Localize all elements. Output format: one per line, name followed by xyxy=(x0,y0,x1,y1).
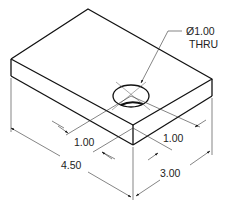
dim-label-hole-offset-left: 1.00 xyxy=(74,136,95,148)
dim-line-length-b xyxy=(88,172,131,197)
isometric-drawing: Ø1.00 THRU 1.00 1.00 4.50 3.00 xyxy=(0,0,225,208)
dim-line-length-a xyxy=(11,128,60,156)
plate-body xyxy=(11,9,212,145)
dim-line-width-a xyxy=(136,180,160,196)
dim-line-width-b xyxy=(190,151,210,165)
dim-line-hole-left xyxy=(58,126,68,133)
dim-label-hole-offset-right: 1.00 xyxy=(163,132,184,144)
dim-line-hole-right xyxy=(195,120,206,127)
hole-diameter-label: Ø1.00 xyxy=(186,25,215,37)
hole-thru-label: THRU xyxy=(189,38,218,50)
hole-inner-edge xyxy=(121,102,143,105)
bottom-left-edge xyxy=(11,76,133,145)
dim-label-width: 3.00 xyxy=(160,167,181,179)
dim-line-hole-left-2 xyxy=(102,152,112,159)
dim-label-length: 4.50 xyxy=(61,159,82,171)
hole-leader xyxy=(141,31,182,83)
dim-line-hole-right-2 xyxy=(148,153,158,160)
